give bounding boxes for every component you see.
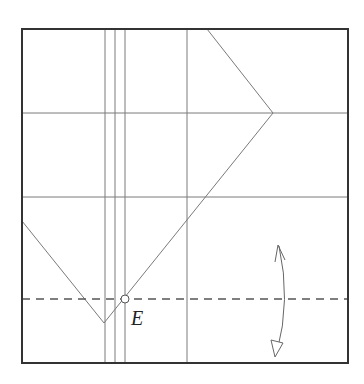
fold-arrow-icon xyxy=(271,245,285,357)
paper-square xyxy=(22,29,348,363)
point-e-marker xyxy=(121,295,129,303)
point-e-label: E xyxy=(131,307,143,330)
origami-diagram: E xyxy=(0,0,364,384)
arrow-head-hollow-icon xyxy=(271,340,283,357)
crease-lines xyxy=(22,29,348,363)
diagonal-creases xyxy=(22,29,273,323)
diagram-canvas xyxy=(0,0,364,384)
arrow-head-open-icon xyxy=(275,245,285,262)
